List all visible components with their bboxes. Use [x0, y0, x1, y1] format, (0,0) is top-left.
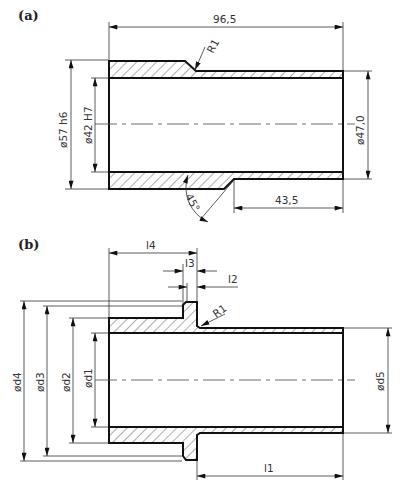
part-outline-a [109, 61, 343, 189]
dim-fillet-radius-b: R1 [210, 302, 228, 320]
dim-l1: l1 [264, 462, 274, 474]
dim-l2: l2 [228, 273, 238, 285]
section-hatch-top-a [109, 61, 343, 78]
dim-l4: l4 [146, 239, 156, 251]
dim-d1: ød1 [82, 368, 94, 388]
dim-fillet-radius-a: R1 [204, 37, 221, 55]
dim-overall-length: 96,5 [213, 13, 236, 25]
dim-d5: ød5 [374, 371, 386, 391]
dim-bore-diameter: ø42 H7 [82, 106, 94, 144]
technical-drawing: 96,5 R1 ø57 h6 ø42 H7 ø47,0 43,5 45° [0, 0, 410, 496]
dim-d2: ød2 [60, 372, 72, 392]
dim-outer-diameter: ø57 h6 [57, 111, 69, 148]
dim-l3: l3 [185, 257, 195, 269]
dim-chamfer-angle: 45° [183, 191, 202, 213]
dim-d4: ød4 [11, 372, 23, 392]
dim-reduced-length: 43,5 [275, 194, 298, 206]
panel-a-drawing: 96,5 R1 ø57 h6 ø42 H7 ø47,0 43,5 45° [57, 13, 372, 222]
dim-reduced-outer-diameter: ø47,0 [354, 115, 366, 145]
panel-b-drawing: l4 l3 l2 R1 ød4 ød3 ød2 ød1 [11, 239, 392, 480]
dim-d3: ød3 [34, 372, 46, 392]
